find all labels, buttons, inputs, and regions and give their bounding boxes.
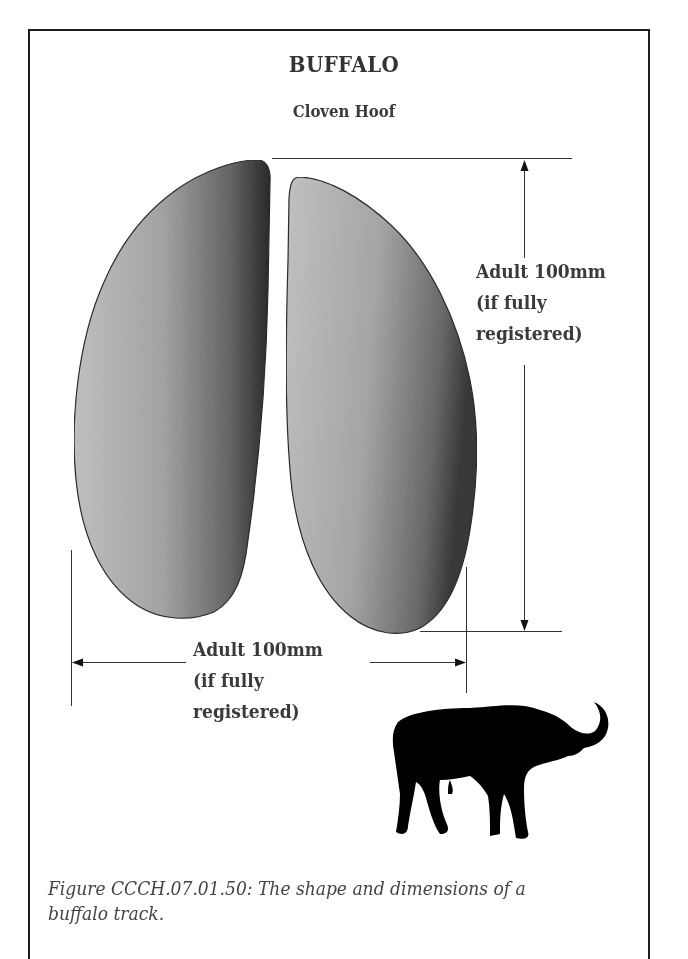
arrow-up-icon <box>521 160 529 171</box>
left-hoof-shape <box>74 160 270 618</box>
width-label-line-2: (if fully <box>193 665 323 696</box>
figure-caption: Figure CCCH.07.01.50: The shape and dime… <box>48 876 588 926</box>
arrow-left-icon <box>72 659 83 667</box>
length-label-line-2: (if fully <box>476 287 606 318</box>
width-dimension-label: Adult 100mm (if fully registered) <box>193 634 323 727</box>
arrow-down-icon <box>521 620 529 631</box>
length-dimension-label: Adult 100mm (if fully registered) <box>476 256 606 349</box>
right-hoof-shape <box>286 177 477 633</box>
length-label-line-3: registered) <box>476 318 606 349</box>
width-label-line-1: Adult 100mm <box>193 634 323 665</box>
width-label-line-3: registered) <box>193 696 323 727</box>
buffalo-silhouette-icon <box>393 702 609 839</box>
length-label-line-1: Adult 100mm <box>476 256 606 287</box>
arrow-right-icon <box>455 659 466 667</box>
